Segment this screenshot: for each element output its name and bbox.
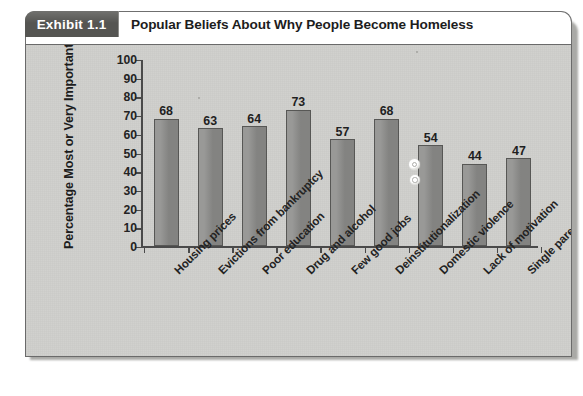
scan-artifact-blob-lower [410,175,420,185]
y-tick-label: 100 [117,54,137,66]
bar-value-label: 57 [336,126,350,138]
y-tick-label: 10 [123,222,137,234]
x-axis-category-label: Single parenthood [525,268,533,276]
header-divider [118,11,119,37]
exhibit-title: Popular Beliefs About Why People Become … [131,13,473,35]
y-axis-line [141,60,143,247]
y-tick-label: 30 [123,185,137,197]
page-speck [416,51,418,53]
bar-value-label: 68 [159,105,173,117]
x-axis-category-label: Drug and alcohol [304,268,312,276]
exhibit-number-label: Exhibit 1.1 [37,17,107,32]
bar-value-label: 54 [424,132,438,144]
x-axis-category-label: Poor education [260,268,268,276]
bar-value-label: 44 [468,150,482,162]
x-axis-category-label: Evictions from bankruptcy [216,268,224,276]
exhibit-figure: Exhibit 1.1 Popular Beliefs About Why Pe… [0,0,583,396]
y-tick-label: 50 [123,147,137,159]
chart-panel: Percentage Most or Very Important 010203… [25,44,572,357]
scan-artifact-blob-upper [409,159,420,170]
exhibit-number-badge: Exhibit 1.1 [25,11,118,37]
x-axis-category-label: Housing prices [172,268,180,276]
x-axis-category-label: Domestic violence [437,268,445,276]
page-speck [198,97,200,99]
y-axis-title: Percentage Most or Very Important [62,59,76,249]
bar-value-label: 73 [291,96,305,108]
x-axis-category-label: Few good jobs [349,268,357,276]
x-axis-category-label: Deinstitutionalization [393,268,401,276]
bar: 68 [154,119,179,246]
y-tick-label: 70 [123,110,137,122]
bar-value-label: 47 [512,145,526,157]
y-tick-label: 90 [123,73,137,85]
plot-area: 0102030405060708090100 68636473576854444… [141,60,538,247]
y-tick-label: 40 [123,166,137,178]
y-tick-label: 60 [123,129,137,141]
y-tick-label: 80 [123,91,137,103]
x-tick-mark [144,247,145,253]
bar-value-label: 64 [247,113,261,125]
y-tick-label: 0 [130,241,137,253]
y-tick-label: 20 [123,203,137,215]
bar-value-label: 68 [380,105,394,117]
bar-value-label: 63 [203,115,217,127]
x-axis-category-label: Lack of motivation [481,268,489,276]
